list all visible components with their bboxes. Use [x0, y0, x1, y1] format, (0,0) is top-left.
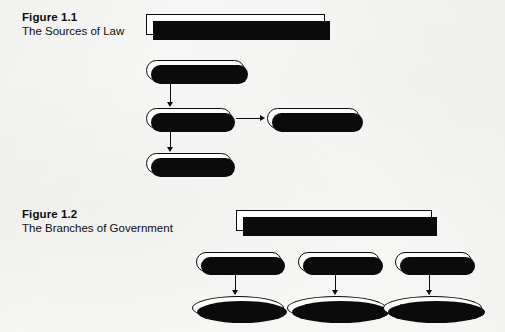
connector-judicial-interprets-law	[429, 272, 430, 292]
connector-constitution-statutes	[170, 81, 171, 104]
connector-executive-enforces-law	[335, 272, 336, 292]
node-cases: Cases	[146, 153, 232, 174]
node-sources-of-law-banner: Sources of Law	[146, 14, 325, 35]
arrowhead-constitution-statutes	[167, 102, 173, 107]
document-page: Figure 1.1 The Sources of Law Sources of…	[0, 0, 505, 332]
node-interprets-law: Interprets Law	[383, 296, 482, 320]
node-branches-of-government-banner: Branches of Government	[236, 210, 432, 231]
figure-1-2-number: Figure 1.2	[22, 207, 173, 221]
connector-statutes-regulations	[236, 118, 262, 119]
node-regulations: Regulations	[267, 108, 360, 129]
connector-legislative-creates-law	[235, 272, 236, 292]
arrowhead-statutes-regulations	[260, 115, 265, 121]
node-executive: Executive	[298, 252, 380, 272]
node-statutes: Statutes	[146, 108, 232, 129]
arrowhead-legislative-creates-law	[232, 290, 238, 295]
arrowhead-executive-enforces-law	[332, 290, 338, 295]
node-enforces-law: Enforces Law	[287, 296, 386, 320]
arrowhead-statutes-cases	[167, 147, 173, 152]
figure-1-1-title: The Sources of Law	[22, 24, 124, 38]
figure-1-1-number: Figure 1.1	[22, 10, 124, 24]
figure-1-1-caption: Figure 1.1 The Sources of Law	[22, 10, 124, 38]
figure-1-2-caption: Figure 1.2 The Branches of Government	[22, 207, 173, 235]
node-creates-law: Creates Law	[192, 296, 284, 320]
arrowhead-judicial-interprets-law	[426, 290, 432, 295]
figure-1-2-title: The Branches of Government	[22, 221, 173, 235]
node-constitution: Constitution	[146, 60, 245, 81]
node-judicial: Judicial	[395, 252, 472, 272]
node-legislative: Legislative	[196, 252, 282, 272]
